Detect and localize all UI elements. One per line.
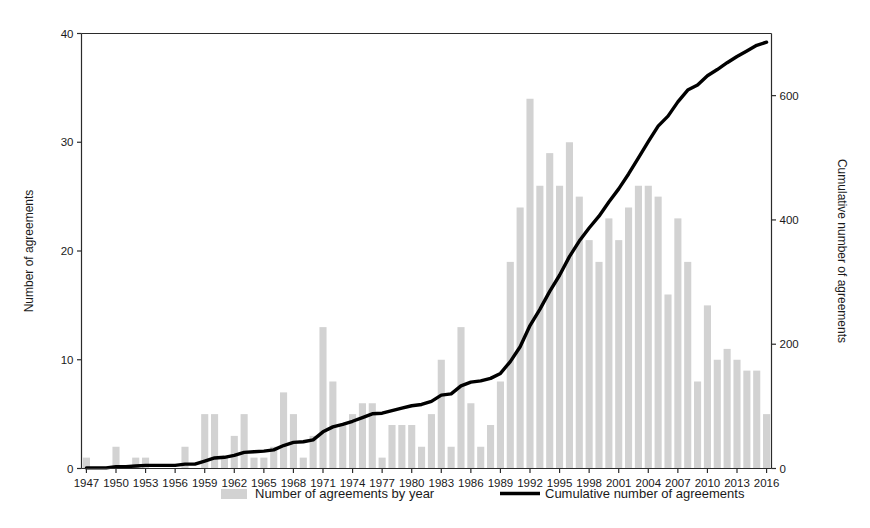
left-tick-label-20: 20 — [61, 245, 74, 257]
bar-1967 — [280, 392, 287, 468]
bar-1994 — [546, 153, 553, 468]
bar-1996 — [566, 142, 573, 468]
bar-1977 — [379, 458, 386, 469]
x-tick-label-1956: 1956 — [162, 477, 188, 489]
x-tick-label-1947: 1947 — [74, 477, 100, 489]
right-axis-title: Cumulative number of agreements — [835, 159, 849, 343]
x-tick-label-1953: 1953 — [133, 477, 159, 489]
x-tick-label-1992: 1992 — [517, 477, 543, 489]
bar-1985 — [457, 327, 464, 468]
legend-label-bars: Number of agreements by year — [255, 486, 435, 501]
bar-1979 — [398, 425, 405, 469]
bar-2010 — [704, 305, 711, 468]
legend-label-line: Cumulative number of agreements — [545, 486, 745, 501]
bar-1980 — [408, 425, 415, 469]
bar-1965 — [260, 458, 267, 469]
bar-1984 — [448, 447, 455, 469]
left-tick-label-40: 40 — [61, 28, 74, 40]
bar-1993 — [536, 186, 543, 469]
bar-1998 — [586, 240, 593, 468]
bar-2009 — [694, 382, 701, 469]
x-tick-label-1959: 1959 — [192, 477, 218, 489]
bar-1971 — [319, 327, 326, 468]
bar-1983 — [438, 360, 445, 469]
bar-2016 — [763, 414, 770, 468]
bar-1978 — [388, 425, 395, 469]
left-axis-title: Number of agreements — [22, 190, 36, 313]
bar-1999 — [595, 262, 602, 469]
bar-2006 — [664, 295, 671, 469]
bar-1986 — [467, 403, 474, 468]
right-tick-label-0: 0 — [780, 463, 786, 475]
bar-2004 — [645, 186, 652, 469]
bar-2005 — [655, 197, 662, 469]
bar-2015 — [753, 371, 760, 469]
right-tick-label-200: 200 — [780, 338, 799, 350]
bar-2013 — [733, 360, 740, 469]
bar-1962 — [231, 436, 238, 469]
left-tick-label-10: 10 — [61, 354, 74, 366]
right-tick-label-400: 400 — [780, 214, 799, 226]
bar-2012 — [724, 349, 731, 469]
bar-1975 — [359, 403, 366, 468]
bar-1969 — [300, 458, 307, 469]
x-tick-label-1989: 1989 — [488, 477, 514, 489]
bar-1982 — [428, 414, 435, 468]
bar-1992 — [526, 99, 533, 469]
bar-2007 — [674, 218, 681, 468]
bar-2003 — [635, 186, 642, 469]
chart-figure: 0102030400200400600194719501953195619591… — [0, 0, 870, 528]
bar-2001 — [615, 240, 622, 468]
bar-2000 — [605, 218, 612, 468]
x-tick-label-1986: 1986 — [458, 477, 484, 489]
bar-2011 — [714, 360, 721, 469]
bar-2002 — [625, 208, 632, 469]
bar-1988 — [487, 425, 494, 469]
legend-swatch-bars — [221, 489, 247, 499]
bar-1981 — [418, 447, 425, 469]
bar-1987 — [477, 447, 484, 469]
x-tick-label-2016: 2016 — [754, 477, 780, 489]
x-tick-label-1962: 1962 — [221, 477, 247, 489]
bar-1964 — [250, 458, 257, 469]
bar-1989 — [497, 382, 504, 469]
chart-canvas: 0102030400200400600194719501953195619591… — [0, 0, 870, 528]
bar-series — [83, 99, 770, 469]
bar-2014 — [743, 371, 750, 469]
left-tick-label-0: 0 — [67, 463, 73, 475]
bar-1961 — [221, 458, 228, 469]
bar-1995 — [556, 186, 563, 469]
bar-2008 — [684, 262, 691, 469]
x-tick-label-1950: 1950 — [103, 477, 129, 489]
bar-1973 — [339, 425, 346, 469]
bar-1963 — [241, 414, 248, 468]
left-tick-label-30: 30 — [61, 136, 74, 148]
right-tick-label-600: 600 — [780, 90, 799, 102]
